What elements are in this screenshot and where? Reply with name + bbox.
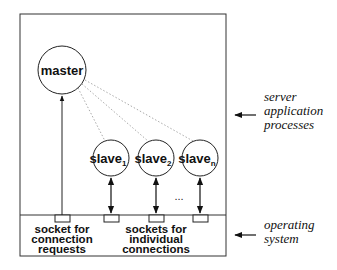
svg-text:requests: requests (38, 243, 86, 255)
slave-node-1: slave1 (90, 140, 130, 176)
slave-node-2: slave2 (135, 140, 175, 176)
slave-label: slave (135, 151, 168, 166)
slave-socket-arrows (111, 178, 200, 213)
individual-sockets-label: sockets for individual connections (122, 223, 190, 255)
svg-text:system: system (264, 231, 299, 246)
slave-subscript: n (211, 159, 216, 168)
slave-node-n: slaven (178, 140, 218, 176)
master-label: master (41, 63, 84, 78)
svg-text:slave1: slave1 (90, 151, 128, 168)
slave-subscript: 2 (167, 159, 172, 168)
slave-label: slave (178, 151, 211, 166)
socket-2 (149, 215, 164, 222)
server-processes-label: server application processes (263, 89, 323, 132)
socket-connection (55, 215, 70, 222)
master-slave-links (78, 80, 193, 141)
svg-text:connections: connections (122, 243, 190, 255)
svg-text:server: server (264, 89, 297, 104)
slave-subscript: 1 (122, 159, 127, 168)
socket-1 (104, 215, 119, 222)
master-node: master (38, 46, 86, 94)
svg-text:slaven: slaven (178, 151, 216, 168)
connection-socket-label: socket for connection requests (31, 223, 92, 255)
svg-text:operating: operating (264, 217, 315, 232)
slave-label: slave (90, 151, 123, 166)
sockets (55, 215, 208, 222)
operating-system-label: operating system (264, 217, 315, 246)
server-architecture-diagram: master slave1 slave2 slaven ... socket f… (0, 0, 337, 270)
ellipsis: ... (174, 190, 183, 202)
socket-n (193, 215, 208, 222)
svg-text:slave2: slave2 (135, 151, 173, 168)
svg-text:processes: processes (263, 117, 314, 132)
svg-text:application: application (264, 103, 323, 118)
